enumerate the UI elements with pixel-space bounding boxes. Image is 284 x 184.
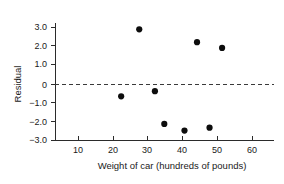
x-axis-title: Weight of car (hundreds of pounds) (98, 160, 247, 171)
data-point (152, 88, 158, 94)
data-point (161, 121, 167, 127)
y-axis-title: Residual (12, 66, 23, 103)
y-tick-label: −1.0 (29, 98, 47, 108)
y-tick-label: 2.0 (34, 41, 47, 51)
data-point (118, 93, 124, 99)
x-tick-marks (78, 136, 252, 141)
data-points-group (118, 26, 225, 133)
y-tick-label: 3.0 (34, 22, 47, 32)
data-point (219, 45, 225, 51)
y-tick-label: 0 (42, 80, 47, 90)
y-tick-marks (51, 27, 55, 140)
data-point (206, 125, 212, 131)
x-tick-labels: 10 20 30 40 50 60 (73, 145, 257, 155)
y-tick-label: −2.0 (29, 117, 47, 127)
y-tick-labels: 3.0 2.0 1.0 0 −1.0 −2.0 −3.0 (29, 22, 47, 145)
data-point (194, 39, 200, 45)
x-tick-label: 60 (247, 145, 257, 155)
x-tick-label: 20 (108, 145, 118, 155)
residual-plot-figure: Residual 3.0 2.0 1.0 0 −1.0 −2.0 −3.0 (0, 0, 284, 184)
x-tick-label: 50 (212, 145, 222, 155)
x-tick-label: 30 (142, 145, 152, 155)
y-tick-label: −3.0 (29, 135, 47, 145)
x-tick-label: 10 (73, 145, 83, 155)
x-tick-label: 40 (177, 145, 187, 155)
y-tick-label: 1.0 (34, 59, 47, 69)
scatter-plot-canvas: Residual 3.0 2.0 1.0 0 −1.0 −2.0 −3.0 (0, 0, 284, 184)
data-point (136, 26, 142, 32)
data-point (181, 127, 187, 133)
